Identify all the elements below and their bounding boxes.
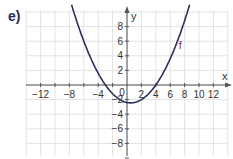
svg-text:12: 12: [208, 89, 220, 100]
svg-text:−4: −4: [112, 109, 124, 120]
svg-text:8: 8: [182, 89, 188, 100]
svg-text:6: 6: [117, 36, 123, 47]
svg-text:10: 10: [193, 89, 205, 100]
axes: [26, 0, 232, 159]
svg-text:−8: −8: [64, 89, 76, 100]
svg-text:2: 2: [117, 65, 123, 76]
x-axis-label: x: [222, 70, 228, 82]
svg-text:−2: −2: [112, 94, 124, 105]
svg-text:8: 8: [117, 21, 123, 32]
function-plot: −12−8−40246810128642−2−4−6−8 f x y: [0, 0, 233, 159]
y-axis-label: y: [131, 10, 137, 22]
svg-text:4: 4: [153, 89, 159, 100]
svg-text:−8: −8: [112, 138, 124, 149]
svg-text:4: 4: [117, 50, 123, 61]
svg-text:−4: −4: [92, 89, 104, 100]
function-label-f: f: [179, 39, 183, 51]
svg-text:−6: −6: [112, 123, 124, 134]
svg-text:6: 6: [167, 89, 173, 100]
svg-text:−12: −12: [32, 89, 49, 100]
